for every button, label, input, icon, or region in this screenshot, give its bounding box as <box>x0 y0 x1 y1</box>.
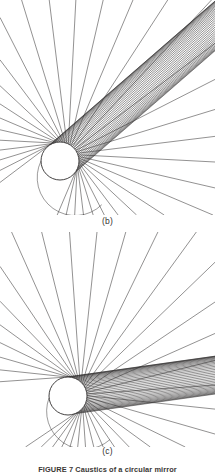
ray-segment <box>78 47 215 166</box>
ray-segment <box>53 412 78 447</box>
ray-segment <box>70 18 215 144</box>
ray-segment <box>79 161 137 215</box>
ray-segment <box>77 34 215 154</box>
ray-segment <box>73 358 215 378</box>
ray-segment <box>67 14 215 143</box>
ray-segment <box>86 302 215 389</box>
ray-segment <box>74 358 215 378</box>
ray-segment <box>41 413 76 447</box>
ray-segment <box>0 146 48 182</box>
ray-segment <box>62 9 215 142</box>
ray-segment <box>83 408 86 447</box>
ray-segment <box>77 31 215 151</box>
ray-segment <box>74 0 212 148</box>
ray-segment <box>26 414 75 447</box>
ray-segment <box>80 362 215 381</box>
circular-mirror <box>41 142 79 180</box>
ray-segment <box>75 43 215 149</box>
circular-mirror <box>49 377 87 415</box>
ray-segment <box>60 8 215 142</box>
panel-label-c: (c) <box>0 446 215 456</box>
ray-segment <box>87 399 185 447</box>
ray-segment <box>0 343 71 378</box>
ray-segment <box>42 232 79 380</box>
ray-segment <box>68 16 215 144</box>
ray-segment <box>80 391 215 410</box>
panel-label-b: (b) <box>0 216 215 226</box>
ray-segment <box>79 158 213 215</box>
ray-segment <box>78 48 215 167</box>
ray-segment <box>0 17 64 142</box>
ray-segment <box>22 0 66 143</box>
ray-segment <box>55 4 215 143</box>
ray-segment <box>0 140 54 143</box>
caustic-diagram-b <box>0 0 215 215</box>
ray-segment <box>79 163 118 215</box>
ray-segment <box>74 25 215 148</box>
ray-segment <box>52 2 215 143</box>
ray-segment <box>75 51 215 172</box>
ray-segment <box>0 86 60 142</box>
ray-segment <box>79 160 164 215</box>
ray-segment <box>64 11 215 143</box>
panel-c: (c) <box>0 232 215 473</box>
ray-segment <box>83 389 215 408</box>
ray-segment <box>0 325 73 378</box>
ray-segment <box>49 0 67 143</box>
ray-segment <box>54 3 215 143</box>
panel-b: (b) <box>0 0 215 232</box>
ray-segment <box>0 118 57 142</box>
ray-segment <box>59 6 215 142</box>
caustic-diagram-c <box>0 232 215 447</box>
ray-segment <box>57 5 215 142</box>
figure-caption: FIGURE 7 Caustics of a circular mirror <box>8 466 207 473</box>
ray-segment <box>79 41 215 159</box>
ray-segment <box>77 360 215 379</box>
ray-segment <box>77 109 215 151</box>
figure-root: (b) (c) FIGURE 7 Caustics of a circular … <box>0 0 215 473</box>
ray-segment <box>76 50 215 171</box>
ray-segment <box>0 357 69 377</box>
ray-segment <box>71 21 215 146</box>
ray-segment <box>78 409 82 447</box>
ray-segment <box>70 232 80 381</box>
ray-segment <box>0 301 74 378</box>
ray-segment <box>79 40 215 158</box>
ray-segment <box>72 0 167 147</box>
